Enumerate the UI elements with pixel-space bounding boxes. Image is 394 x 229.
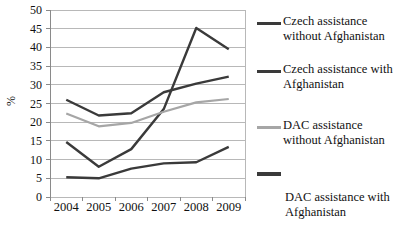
y-axis-tick-label: 5 bbox=[18, 172, 42, 184]
y-axis-tick-label: 10 bbox=[18, 154, 42, 166]
y-axis-tick-label: 50 bbox=[18, 4, 42, 16]
series-line-0 bbox=[66, 28, 229, 167]
chart-figure: % 50454035302520151050200420052006200720… bbox=[0, 0, 394, 229]
legend-color-swatch bbox=[257, 22, 281, 25]
legend-label: DAC assistance without Afghanistan bbox=[283, 118, 394, 147]
legend-color-swatch bbox=[257, 126, 281, 129]
y-axis-tick-label: 35 bbox=[18, 60, 42, 72]
y-axis-tick-label: 25 bbox=[18, 98, 42, 110]
legend-label: Czech assistance without Afghanistan bbox=[283, 14, 394, 43]
y-axis-tick-label: 45 bbox=[18, 23, 42, 35]
series-line-1 bbox=[66, 77, 229, 116]
x-axis-tick-label: 2009 bbox=[209, 201, 249, 214]
y-axis-tick-label: 40 bbox=[18, 41, 42, 53]
legend-label: Czech assistance with Afghanistan bbox=[283, 62, 394, 91]
y-axis-tick-label: 20 bbox=[18, 116, 42, 128]
legend-label: DAC assistance with Afghanistan bbox=[285, 190, 394, 219]
legend-color-swatch bbox=[257, 172, 281, 176]
plot-region: % 50454035302520151050200420052006200720… bbox=[0, 0, 250, 229]
series-line-3 bbox=[66, 147, 229, 178]
y-axis-tick-label: 30 bbox=[18, 79, 42, 91]
y-axis-tick-label: 0 bbox=[18, 191, 42, 203]
legend-color-swatch bbox=[257, 70, 281, 73]
y-axis-tick-label: 15 bbox=[18, 135, 42, 147]
chart-legend: Czech assistance without AfghanistanCzec… bbox=[255, 0, 394, 229]
